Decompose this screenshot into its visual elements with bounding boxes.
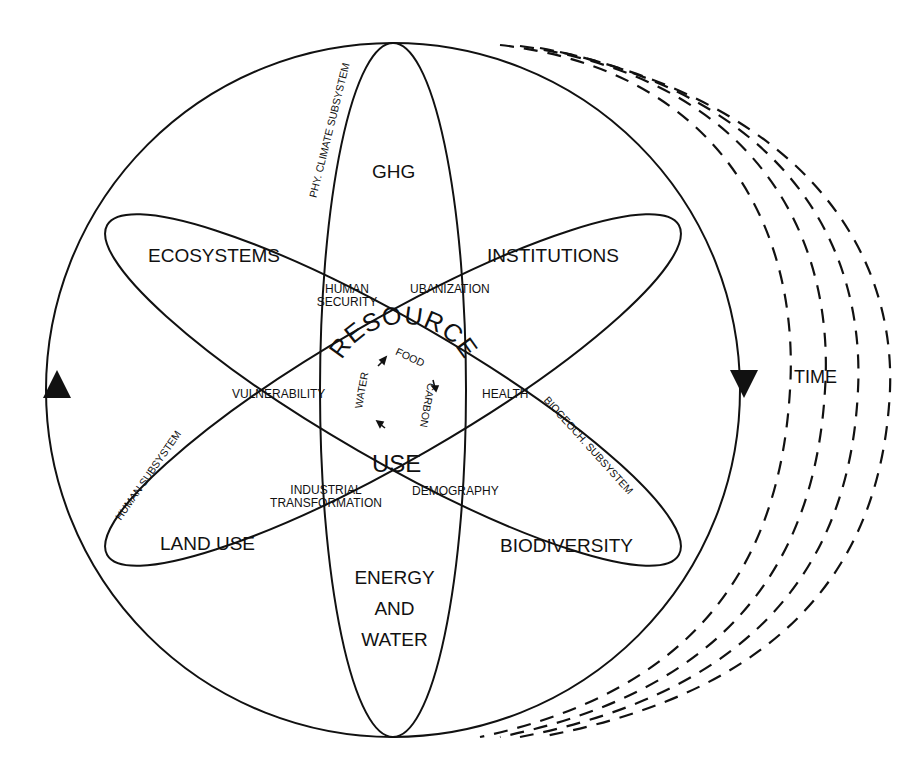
domain-ghg: GHG xyxy=(372,162,415,181)
domain-institutions: INSTITUTIONS xyxy=(487,246,619,265)
human-security-line2: SECURITY xyxy=(312,296,382,309)
domain-biodiversity: BIODIVERSITY xyxy=(500,536,633,555)
domain-energy-line1: ENERGY xyxy=(352,567,437,590)
label-demography: DEMOGRAPHY xyxy=(412,485,499,498)
domain-land-use: LAND USE xyxy=(160,534,255,553)
core-title-use: USE xyxy=(372,452,421,476)
down-arrow-icon xyxy=(730,370,758,398)
label-time: TIME xyxy=(794,368,837,386)
domain-ecosystems: ECOSYSTEMS xyxy=(148,246,280,265)
domain-energy-and-water: ENERGY AND WATER xyxy=(352,567,437,651)
label-industrial-transformation: INDUSTRIAL TRANSFORMATION xyxy=(262,484,390,510)
label-vulnerability: VULNERABILITY xyxy=(232,388,325,401)
label-health: HEALTH xyxy=(482,388,528,401)
diagram-canvas: RESOURCE xyxy=(0,0,908,780)
domain-energy-line3: WATER xyxy=(352,629,437,652)
time-trail-dashes xyxy=(480,45,890,737)
label-urbanization: UBANIZATION xyxy=(410,283,490,296)
label-human-security: HUMAN SECURITY xyxy=(312,283,382,309)
industrial-line2: TRANSFORMATION xyxy=(262,497,390,510)
domain-energy-line2: AND xyxy=(352,598,437,621)
